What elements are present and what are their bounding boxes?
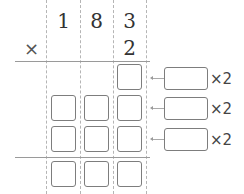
- answer-box-r3-c2[interactable]: [84, 126, 109, 152]
- multiplicand-digit-hundreds: 1: [47, 10, 80, 32]
- left-arrow-icon: [152, 139, 164, 140]
- answer-box-r2-c1[interactable]: [51, 95, 76, 121]
- answer-box-r3-c3[interactable]: [117, 126, 142, 152]
- answer-box-r3-c1[interactable]: [51, 126, 76, 152]
- answer-box-r2-c2[interactable]: [84, 95, 109, 121]
- product-rule-bottom: [15, 157, 150, 158]
- column-divider: [146, 0, 147, 194]
- answer-box-r2-c3[interactable]: [117, 95, 142, 121]
- multiplicand-digit-ones: 3: [113, 10, 146, 32]
- product-rule-top: [15, 61, 150, 62]
- result-box-c1[interactable]: [51, 161, 76, 187]
- answer-box-r1-c3[interactable]: [117, 64, 142, 90]
- times-two-label: ×2: [210, 131, 232, 149]
- carry-box-r2[interactable]: [164, 97, 208, 120]
- result-box-c3[interactable]: [117, 161, 142, 187]
- multiplier-digit-ones: 2: [113, 37, 146, 59]
- multiply-sign: ×: [24, 39, 39, 59]
- left-arrow-icon: [152, 108, 164, 109]
- times-two-label: ×2: [210, 100, 232, 118]
- carry-box-r1[interactable]: [164, 67, 208, 90]
- multiplicand-digit-tens: 8: [80, 10, 113, 32]
- result-box-c2[interactable]: [84, 161, 109, 187]
- times-two-label: ×2: [210, 70, 232, 88]
- carry-box-r3[interactable]: [164, 128, 208, 151]
- left-arrow-icon: [152, 78, 164, 79]
